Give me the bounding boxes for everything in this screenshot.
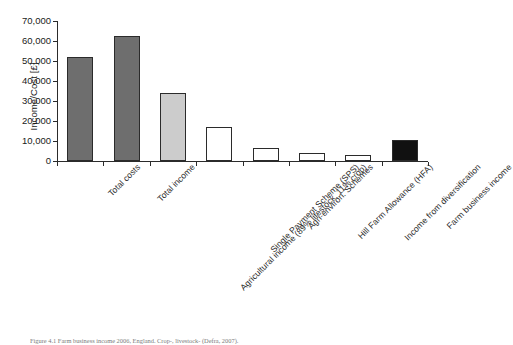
y-tick-mark [53,141,57,142]
x-axis-label: Agri-environ. Schemes [305,162,374,231]
figure-caption: Figure 4.1 Farm business income 2006, En… [30,337,430,344]
x-tick-mark [196,162,197,166]
x-axis-label: Total income [155,162,197,204]
bar [67,57,93,161]
x-tick-mark [289,162,290,166]
y-tick-label: 20,000 [0,115,51,126]
x-tick-mark [57,162,58,166]
bar [253,148,279,161]
bar [392,140,418,161]
y-tick-label: 50,000 [0,55,51,66]
y-axis-line [57,21,58,162]
y-tick-mark [53,81,57,82]
bar [206,127,232,161]
y-tick-mark [53,61,57,62]
bar [299,153,325,161]
x-tick-mark [243,162,244,166]
y-tick-label: 30,000 [0,95,51,106]
x-tick-mark [150,162,151,166]
y-tick-mark [53,41,57,42]
y-tick-mark [53,121,57,122]
y-tick-label: 40,000 [0,75,51,86]
y-tick-label: 60,000 [0,35,51,46]
y-tick-mark [53,101,57,102]
x-axis-label: Total costs [106,162,142,198]
x-tick-mark [103,162,104,166]
x-axis-label: Single Payment Scheme (SPS) [269,162,361,254]
x-tick-mark [335,162,336,166]
y-tick-label: 10,000 [0,135,51,146]
y-tick-label: 70,000 [0,15,51,26]
x-tick-mark [382,162,383,166]
y-tick-label: 0 [0,155,51,166]
bar [160,93,186,161]
bar [114,36,140,161]
bar [345,155,371,161]
y-tick-mark [53,21,57,22]
plot-area: 010,00020,00030,00040,00050,00060,00070,… [57,21,428,161]
